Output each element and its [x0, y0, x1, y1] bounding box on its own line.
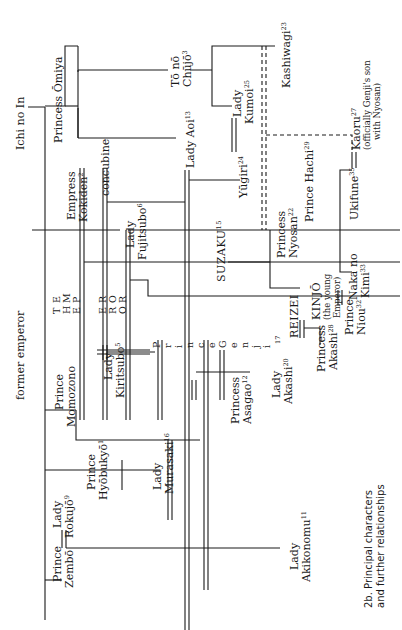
person-prince-hyobukyo-line2: Hyōbukyō1	[97, 440, 110, 500]
prince-genji-label: P r i n c e G e n j i 17	[151, 336, 282, 349]
person-lady-akashi-line2: Akashi20	[282, 358, 295, 405]
figure-caption: 2b. Principal characters	[363, 490, 374, 608]
kaoru-note-line2: with Nyosan)	[372, 83, 382, 140]
person-prince-niou-line2: Niou32	[355, 300, 368, 335]
person-princess-nyosan-line2: Nyosan22	[287, 208, 300, 258]
svg-text:e: e	[206, 342, 217, 348]
person-to-no-chujo-line2: Chūjō3	[181, 50, 194, 87]
labels: Ichi no In Princess Ōmiya Tō nō Chūjō3 K…	[14, 22, 386, 608]
connector-lines	[28, 46, 400, 630]
kaoru-note: (officially Genji's son	[362, 60, 372, 150]
person-yugiri: Yūgiri24	[237, 156, 250, 199]
person-ukifune: Ukifune35	[348, 168, 361, 221]
the-emperor-label: T H E E M P E R O R O R	[51, 293, 128, 314]
figure-caption-line2: and further relationships	[375, 484, 386, 608]
svg-text:r: r	[162, 343, 173, 348]
person-prince-hachi: Prince Hachi29	[303, 141, 316, 222]
person-lady-kiritsubo-line2: Kiritsubo5	[114, 343, 127, 398]
person-reizei: REIZEI	[288, 294, 301, 338]
person-lady-fujitsubo-line2: Fujitsubo6	[136, 203, 149, 260]
person-lady-murasaki-line2: Murasaki16	[163, 433, 176, 494]
person-princess-akashi-line2: Akashi28	[327, 324, 340, 371]
person-empress-kokiden-line2: Kokiden2	[77, 172, 90, 222]
svg-text:R: R	[117, 295, 128, 303]
kinjo-note-line2: Emperor)	[332, 277, 342, 318]
person-former-emperor: former emperor	[14, 310, 27, 400]
person-princess-omiya: Princess Ōmiya	[52, 56, 65, 143]
svg-text:j: j	[250, 345, 261, 349]
person-prince-zembo-line2: Zembō	[63, 549, 76, 588]
person-prince-momozono-line2: Momozono	[65, 366, 78, 427]
person-naka-no-kimi-line2: Kimi33	[359, 264, 372, 298]
svg-text:17: 17	[274, 336, 282, 344]
genealogy-diagram: Ichi no In Princess Ōmiya Tō nō Chūjō3 K…	[0, 0, 402, 630]
svg-text:G: G	[217, 340, 228, 348]
person-lady-kumoi-line2: Kumoi25	[243, 80, 256, 124]
person-lady-aoi: Lady Aoi13	[184, 111, 197, 168]
svg-text:i: i	[173, 345, 184, 348]
kinjo-note: (the young	[322, 273, 332, 320]
svg-text:n: n	[239, 342, 250, 348]
svg-text:P: P	[71, 296, 82, 303]
person-concubine: concubine	[99, 139, 112, 196]
svg-text:n: n	[184, 342, 195, 348]
person-kashiwagi: Kashiwagi23	[280, 22, 293, 88]
svg-text:P: P	[151, 341, 162, 348]
svg-text:O: O	[117, 306, 128, 314]
svg-text:c: c	[195, 343, 206, 348]
svg-text:e: e	[228, 342, 239, 348]
svg-text:i: i	[261, 345, 272, 348]
svg-text:E: E	[71, 307, 82, 314]
person-lady-rokujo-line2: Rokujō9	[63, 495, 76, 538]
person-lady-akikonomu-line2: Akikonomu11	[300, 511, 313, 583]
person-princess-asagao-line2: Asagao12	[241, 375, 254, 425]
person-ichi-no-in: Ichi no In	[14, 97, 27, 150]
